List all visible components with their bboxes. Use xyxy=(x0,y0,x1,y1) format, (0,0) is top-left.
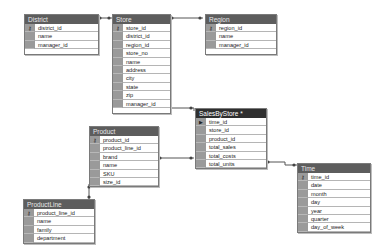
column-row[interactable]: name xyxy=(90,161,158,169)
table-product[interactable]: Product ⚷product_id product_line_id bran… xyxy=(89,126,159,187)
column-row[interactable]: manager_id xyxy=(25,41,98,49)
column-row[interactable]: district_id xyxy=(113,32,170,40)
table-title[interactable]: SalesByStore * xyxy=(196,109,266,118)
column-row[interactable]: name xyxy=(25,32,98,40)
column-row[interactable]: brand xyxy=(90,153,158,161)
column-name: total_units xyxy=(205,160,266,168)
column-row[interactable]: department xyxy=(24,234,94,242)
table-title[interactable]: Store xyxy=(113,15,170,24)
column-row[interactable]: product_line_id xyxy=(90,144,158,152)
column-name: size_id xyxy=(99,178,158,186)
column-name: total_costs xyxy=(205,152,266,160)
column-row[interactable]: name xyxy=(24,217,94,225)
table-title[interactable]: Time xyxy=(298,164,370,173)
column-row[interactable]: name xyxy=(206,32,276,40)
row-selector xyxy=(113,49,122,57)
column-row[interactable]: total_costs xyxy=(196,152,266,160)
table-productline[interactable]: ProductLine ⚷product_line_id name family… xyxy=(23,199,95,244)
table-padding xyxy=(206,49,276,54)
table-title[interactable]: Product xyxy=(90,127,158,136)
column-name: month xyxy=(307,190,370,198)
column-row[interactable]: state xyxy=(113,83,170,91)
column-row[interactable]: year xyxy=(298,207,370,215)
column-row[interactable]: store_no xyxy=(113,49,170,57)
column-name: city xyxy=(122,74,170,82)
table-padding xyxy=(25,49,98,54)
current-row-icon: ▶ xyxy=(196,118,205,126)
column-row[interactable]: ⚷store_id xyxy=(113,24,170,32)
column-name: SKU xyxy=(99,170,158,178)
column-row[interactable]: store_id xyxy=(196,126,266,134)
table-padding xyxy=(113,108,170,113)
column-name: time_id xyxy=(205,118,266,126)
rel-sales-time xyxy=(265,162,297,165)
column-row[interactable]: name xyxy=(113,58,170,66)
column-name: district_id xyxy=(34,24,98,32)
column-name: address xyxy=(122,66,170,74)
row-selector xyxy=(196,160,205,168)
column-row[interactable]: city xyxy=(113,74,170,82)
table-region[interactable]: Region ⚷region_id name manager_id xyxy=(205,14,277,55)
column-row[interactable]: ▶time_id xyxy=(196,118,266,126)
column-row[interactable]: manager_id xyxy=(206,41,276,49)
column-name: district_id xyxy=(122,32,170,40)
column-name: time_id xyxy=(307,173,370,181)
column-row[interactable]: zip xyxy=(113,91,170,99)
table-title[interactable]: Region xyxy=(206,15,276,24)
row-selector xyxy=(90,170,99,178)
column-name: store_id xyxy=(122,24,170,32)
column-row[interactable]: region_id xyxy=(113,41,170,49)
row-selector xyxy=(24,234,33,242)
column-row[interactable]: total_sales xyxy=(196,143,266,151)
column-row[interactable]: SKU xyxy=(90,170,158,178)
row-selector xyxy=(90,161,99,169)
column-row[interactable]: ⚷region_id xyxy=(206,24,276,32)
table-title[interactable]: ProductLine xyxy=(24,200,94,209)
row-selector xyxy=(206,32,215,40)
column-row[interactable]: day xyxy=(298,198,370,206)
column-name: name xyxy=(33,217,94,225)
row-selector xyxy=(113,66,122,74)
table-district[interactable]: District ⚷district_id name manager_id xyxy=(24,14,99,55)
column-row[interactable]: date xyxy=(298,181,370,189)
column-row[interactable]: quarter xyxy=(298,215,370,223)
column-name: date xyxy=(307,181,370,189)
column-name: store_id xyxy=(205,126,266,134)
row-selector xyxy=(90,153,99,161)
column-row[interactable]: product_id xyxy=(196,135,266,143)
table-store[interactable]: Store ⚷store_id district_id region_id st… xyxy=(112,14,171,114)
column-name: brand xyxy=(99,153,158,161)
column-row[interactable]: total_units xyxy=(196,160,266,168)
column-row[interactable]: ⚷product_line_id xyxy=(24,209,94,217)
row-selector xyxy=(298,207,307,215)
column-row[interactable]: ⚷product_id xyxy=(90,136,158,144)
column-row[interactable]: family xyxy=(24,226,94,234)
column-row[interactable]: day_of_week xyxy=(298,223,370,231)
column-row[interactable]: ⚷time_id xyxy=(298,173,370,181)
row-selector xyxy=(113,83,122,91)
row-selector xyxy=(298,198,307,206)
column-row[interactable]: ⚷district_id xyxy=(25,24,98,32)
row-selector xyxy=(196,152,205,160)
row-selector xyxy=(196,135,205,143)
column-name: family xyxy=(33,226,94,234)
row-selector xyxy=(25,41,34,49)
row-selector xyxy=(298,215,307,223)
table-salesbystore[interactable]: SalesByStore * ▶time_id store_id product… xyxy=(195,108,267,169)
table-title[interactable]: District xyxy=(25,15,98,24)
row-selector xyxy=(113,100,122,108)
column-row[interactable]: month xyxy=(298,190,370,198)
primary-key-icon: ⚷ xyxy=(25,24,34,32)
row-selector xyxy=(196,126,205,134)
column-name: manager_id xyxy=(215,41,276,49)
table-time[interactable]: Time ⚷time_id date month day year quarte… xyxy=(297,163,371,233)
column-row[interactable]: address xyxy=(113,66,170,74)
column-name: name xyxy=(99,161,158,169)
row-selector xyxy=(25,32,34,40)
row-selector xyxy=(113,74,122,82)
column-row[interactable]: size_id xyxy=(90,178,158,186)
column-name: product_id xyxy=(205,135,266,143)
primary-key-icon: ⚷ xyxy=(113,24,122,32)
diagram-canvas: District ⚷district_id name manager_id St… xyxy=(0,0,388,247)
column-row[interactable]: manager_id xyxy=(113,100,170,108)
